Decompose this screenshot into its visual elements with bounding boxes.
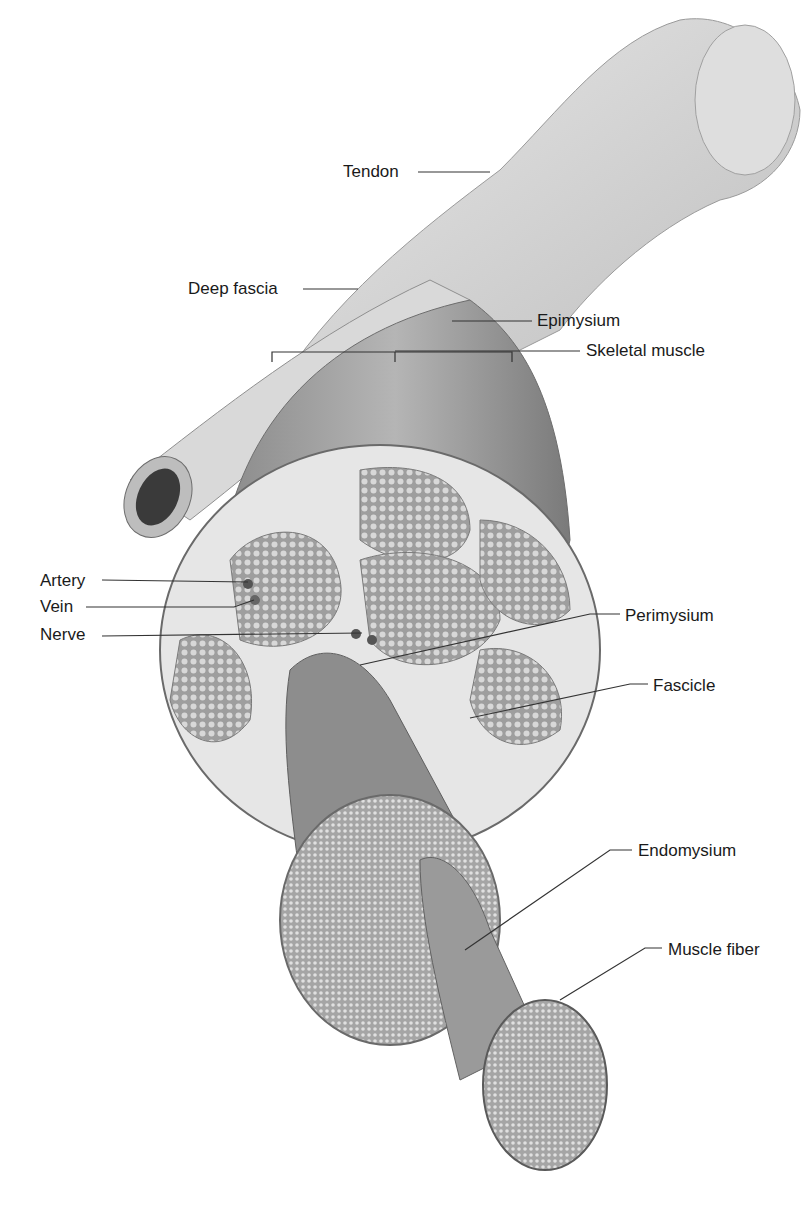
label-vein: Vein bbox=[40, 597, 73, 617]
label-fascicle: Fascicle bbox=[653, 676, 715, 696]
label-nerve: Nerve bbox=[40, 625, 85, 645]
label-artery: Artery bbox=[40, 571, 85, 591]
muscle-fiber-shape bbox=[420, 858, 607, 1170]
muscle-anatomy-illustration bbox=[0, 0, 810, 1209]
label-tendon: Tendon bbox=[343, 162, 399, 182]
label-endomysium: Endomysium bbox=[638, 841, 736, 861]
label-epimysium: Epimysium bbox=[537, 311, 620, 331]
label-deep-fascia: Deep fascia bbox=[188, 279, 278, 299]
label-perimysium: Perimysium bbox=[625, 606, 714, 626]
label-skeletal-muscle: Skeletal muscle bbox=[586, 341, 705, 361]
label-muscle-fiber: Muscle fiber bbox=[668, 940, 760, 960]
